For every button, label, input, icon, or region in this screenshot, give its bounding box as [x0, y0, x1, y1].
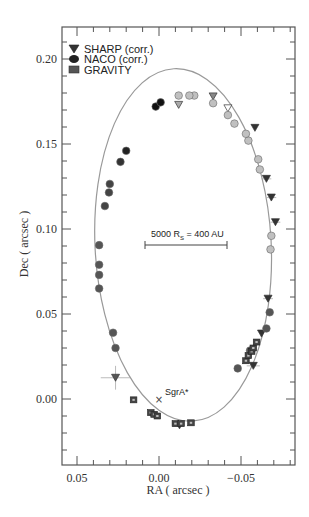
naco-point: [266, 309, 274, 317]
sgra-marker: × SgrA*: [155, 387, 189, 405]
naco-point: [95, 261, 103, 269]
naco-point: [224, 111, 232, 119]
legend-item-gravity: GRAVITY: [69, 64, 132, 76]
sgra-label: SgrA*: [165, 387, 189, 397]
scale-bar-label: 5000 RS = 400 AU: [151, 229, 224, 241]
sharp-point: [251, 124, 259, 131]
naco-point: [242, 130, 250, 138]
naco-point: [256, 166, 264, 174]
orbit-chart: 0.050.00−0.050.000.050.100.150.20 RA ( a…: [0, 0, 309, 517]
naco-point: [105, 189, 113, 197]
naco-point: [157, 99, 165, 107]
x-tick-label: 0.05: [67, 471, 88, 485]
y-tick-label: 0.20: [36, 52, 57, 66]
x-axis-title: RA ( arcsec ): [147, 483, 210, 497]
naco-point: [106, 180, 114, 188]
naco-point: [175, 92, 183, 100]
scale-bar: 5000 RS = 400 AU: [145, 229, 227, 249]
naco-point: [231, 120, 239, 128]
y-axis-title: Dec ( arcsec ): [17, 211, 31, 277]
naco-point: [245, 137, 253, 145]
naco-point: [95, 241, 103, 249]
naco-point: [101, 202, 109, 210]
tick-labels: 0.050.00−0.050.000.050.100.150.20: [36, 52, 255, 485]
y-tick-label: 0.10: [36, 222, 57, 236]
naco-point: [267, 246, 275, 254]
y-tick-label: 0.00: [36, 392, 57, 406]
svg-text:GRAVITY: GRAVITY: [84, 64, 132, 76]
x-mark-icon: ×: [155, 394, 163, 405]
sharp-point: [224, 105, 232, 112]
naco-point: [209, 99, 217, 107]
naco-point: [186, 92, 194, 100]
data-points: [95, 92, 280, 429]
naco-point: [122, 147, 130, 155]
naco-point: [117, 158, 125, 166]
naco-point: [112, 344, 120, 352]
y-tick-label: 0.15: [36, 137, 57, 151]
x-tick-label: −0.05: [227, 471, 255, 485]
naco-point: [109, 329, 117, 337]
triangle-down-icon: [69, 45, 79, 53]
sharp-point: [209, 93, 217, 100]
sharp-point: [175, 101, 183, 108]
circle-icon: [69, 55, 79, 63]
naco-point: [263, 325, 271, 333]
square-icon: [69, 66, 79, 73]
naco-point: [95, 271, 103, 279]
naco-point: [234, 365, 242, 373]
naco-point: [254, 156, 262, 164]
naco-point: [268, 232, 276, 240]
naco-point: [95, 285, 103, 293]
y-tick-label: 0.05: [36, 307, 57, 321]
legend: SHARP (corr.) NACO (corr.) GRAVITY: [69, 43, 153, 76]
